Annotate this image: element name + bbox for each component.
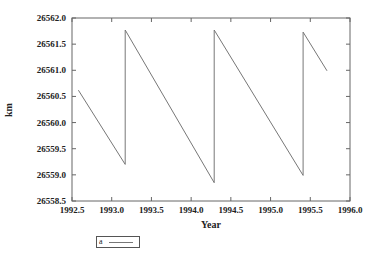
x-tick-label: 1994.0 [179, 205, 204, 215]
y-tick-label: 26560.0 [37, 118, 67, 128]
x-tick-label: 1994.5 [218, 205, 243, 215]
series-a-line [78, 30, 327, 183]
y-tick-label: 26559.0 [37, 170, 67, 180]
x-tick-label: 1996.0 [338, 205, 363, 215]
y-tick-label: 26562.0 [37, 13, 67, 23]
y-tick-label: 26561.5 [37, 39, 67, 49]
legend-label: a [99, 237, 103, 247]
x-axis-title: Year [201, 219, 222, 230]
line-chart: 26558.526559.026559.526560.026560.526561… [0, 0, 379, 263]
plot-frame [72, 18, 350, 201]
y-tick-label: 26561.0 [37, 65, 67, 75]
legend-line-swatch [109, 242, 133, 243]
y-tick-label: 26560.5 [37, 91, 67, 101]
x-tick-label: 1993.5 [139, 205, 164, 215]
y-tick-label: 26559.5 [37, 144, 67, 154]
x-tick-label: 1993.0 [99, 205, 124, 215]
x-tick-label: 1995.5 [298, 205, 323, 215]
y-axis-title: km [3, 102, 14, 117]
x-tick-label: 1995.0 [258, 205, 283, 215]
legend: a [96, 236, 140, 248]
x-axis: 1992.51993.01993.51994.01994.51995.01995… [60, 18, 363, 215]
x-tick-label: 1992.5 [60, 205, 85, 215]
